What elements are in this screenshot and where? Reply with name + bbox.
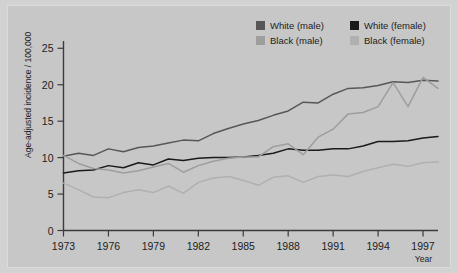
series-line-white-male: [64, 80, 439, 156]
y-tick-label: 0: [48, 225, 54, 237]
legend-item: White (female): [350, 20, 442, 31]
x-tick-label: 1991: [321, 240, 345, 252]
legend-item: White (male): [256, 20, 340, 31]
x-tick-label: 1985: [232, 240, 256, 252]
legend-item: Black (female): [350, 35, 442, 46]
y-tick-label: 25: [42, 42, 54, 54]
chart-legend: White (male)White (female)Black (male)Bl…: [256, 20, 442, 46]
legend-swatch-icon: [256, 21, 265, 30]
legend-swatch-icon: [256, 36, 265, 45]
x-tick-label: 1988: [277, 240, 301, 252]
series-line-black-male: [64, 77, 439, 172]
legend-label: White (female): [364, 20, 426, 31]
chart-figure: Age-adjusted incidence / 100,000 Year 05…: [7, 5, 451, 268]
x-tick-label: 1997: [411, 240, 435, 252]
y-tick-label: 15: [42, 115, 54, 127]
y-tick-label: 5: [48, 188, 54, 200]
legend-item: Black (male): [256, 35, 340, 46]
y-tick-label: 10: [42, 152, 54, 164]
x-tick-label: 1973: [52, 240, 76, 252]
x-tick-label: 1976: [97, 240, 121, 252]
x-axis-title: Year: [415, 254, 432, 264]
y-tick-label: 20: [42, 79, 54, 91]
y-axis-ticks: 0510152025: [42, 42, 64, 236]
legend-label: Black (male): [270, 35, 323, 46]
series-lines-group: [64, 77, 439, 197]
legend-swatch-icon: [350, 36, 359, 45]
y-axis-title: Age-adjusted incidence / 100,000: [23, 32, 33, 158]
x-tick-label: 1979: [142, 240, 166, 252]
legend-swatch-icon: [350, 21, 359, 30]
legend-label: White (male): [270, 20, 324, 31]
x-tick-label: 1982: [187, 240, 211, 252]
legend-label: Black (female): [364, 35, 425, 46]
x-tick-label: 1994: [366, 240, 390, 252]
x-axis-ticks: 197319761979198219851988199119941997: [52, 231, 435, 252]
